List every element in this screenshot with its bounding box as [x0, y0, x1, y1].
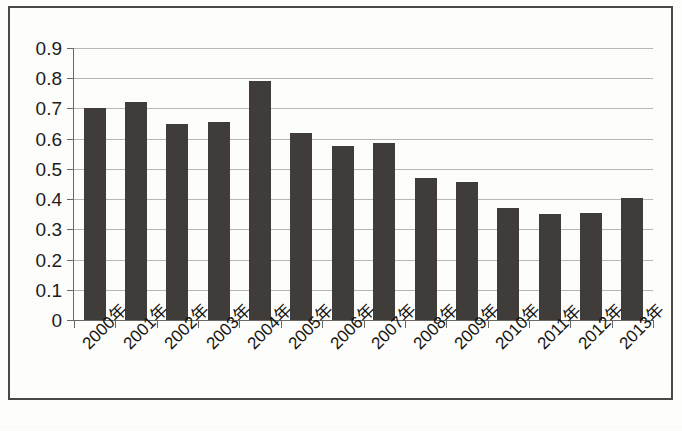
bar	[373, 143, 395, 320]
plot-area	[74, 48, 653, 320]
y-axis-tick-label: 0.7	[18, 99, 62, 118]
x-axis-tick-mark	[74, 321, 75, 328]
bar	[249, 81, 271, 320]
bar	[580, 213, 602, 320]
y-axis-tick-label: 0	[18, 311, 62, 330]
bar	[332, 146, 354, 320]
bar	[539, 214, 561, 320]
gridline	[74, 78, 653, 79]
bar	[290, 133, 312, 320]
bar	[456, 182, 478, 320]
y-axis-tick-labels: 0.90.80.70.60.50.40.30.20.10	[10, 0, 62, 431]
gridline	[74, 229, 653, 230]
y-axis-tick-label: 0.1	[18, 281, 62, 300]
y-axis-tick-label: 0.8	[18, 69, 62, 88]
bar	[166, 124, 188, 320]
gridline	[74, 139, 653, 140]
bar	[497, 208, 519, 320]
gridline	[74, 260, 653, 261]
gridline	[74, 290, 653, 291]
y-axis-tick-label: 0.3	[18, 220, 62, 239]
gridline	[74, 48, 653, 49]
y-axis-tick-label: 0.9	[18, 39, 62, 58]
y-axis-tick-label: 0.2	[18, 251, 62, 270]
bar	[415, 178, 437, 320]
gridline	[74, 108, 653, 109]
gridline	[74, 169, 653, 170]
y-axis-tick-label: 0.5	[18, 160, 62, 179]
bar	[84, 108, 106, 320]
bar	[125, 102, 147, 320]
bar	[208, 122, 230, 320]
gridline	[74, 199, 653, 200]
y-axis-tick-label: 0.6	[18, 130, 62, 149]
chart-figure: 0.90.80.70.60.50.40.30.20.10 2000年2001年2…	[0, 0, 682, 431]
y-axis-tick-label: 0.4	[18, 190, 62, 209]
bar	[621, 198, 643, 320]
